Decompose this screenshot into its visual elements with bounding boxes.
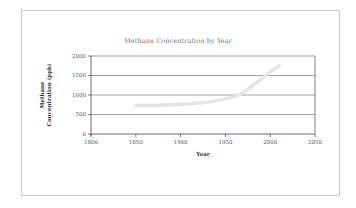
x-axis-title: Year xyxy=(195,151,210,157)
y-axis-ticks: 0500100015002000 xyxy=(72,53,91,137)
x-tick-label: 1850 xyxy=(129,139,143,145)
methane-series-line xyxy=(136,66,279,106)
y-axis-title-line: Methane xyxy=(39,81,45,109)
x-tick-label: 2050 xyxy=(308,139,322,145)
y-tick-label: 0 xyxy=(83,131,87,137)
gridlines xyxy=(91,56,315,115)
y-tick-label: 1000 xyxy=(72,92,86,98)
x-axis-ticks: 180018501900195020002050 xyxy=(84,134,322,145)
y-axis-title: MethaneConcentration (ppb) xyxy=(39,63,53,126)
y-tick-label: 1500 xyxy=(72,72,86,78)
y-tick-label: 500 xyxy=(76,111,87,117)
y-tick-label: 2000 xyxy=(72,53,86,59)
axes xyxy=(91,56,315,136)
x-tick-label: 1950 xyxy=(218,139,232,145)
x-tick-label: 1900 xyxy=(174,139,188,145)
x-tick-label: 2000 xyxy=(263,139,277,145)
line-chart: 0500100015002000 18001850190019502000205… xyxy=(0,0,356,208)
x-tick-label: 1800 xyxy=(84,139,98,145)
y-axis-title-line: Concentration (ppb) xyxy=(46,63,53,126)
